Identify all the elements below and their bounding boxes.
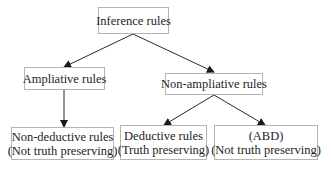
inference-rules-diagram: Inference rules Ampliative rules Non-amp… <box>0 0 331 173</box>
node-sublabel: (Not truth preserving) <box>211 143 321 157</box>
node-label: Ampliative rules <box>23 72 107 86</box>
node-abd: (ABD) (Not truth preserving) <box>214 125 318 160</box>
node-label: (ABD) <box>249 129 284 143</box>
edge-non-ampliative-to-abd <box>214 95 265 125</box>
node-ampliative-rules: Ampliative rules <box>24 67 105 90</box>
node-inference-rules: Inference rules <box>98 7 169 34</box>
node-label: Inference rules <box>96 14 171 28</box>
node-deductive-rules: Deductive rules (Truth preserving) <box>120 125 207 160</box>
edge-non-ampliative-to-deductive <box>164 95 214 125</box>
node-non-ampliative-rules: Non-ampliative rules <box>165 73 263 95</box>
node-non-deductive-rules: Non-deductive rules (Not truth preservin… <box>11 127 114 160</box>
node-label: Non-ampliative rules <box>161 77 267 91</box>
node-sublabel: (Truth preserving) <box>118 143 210 157</box>
edge-inference-to-ampliative <box>64 34 133 67</box>
node-sublabel: (Not truth preserving) <box>8 144 118 158</box>
node-label: Deductive rules <box>124 129 203 143</box>
node-label: Non-deductive rules <box>12 130 114 144</box>
edge-inference-to-non-ampliative <box>133 34 214 72</box>
